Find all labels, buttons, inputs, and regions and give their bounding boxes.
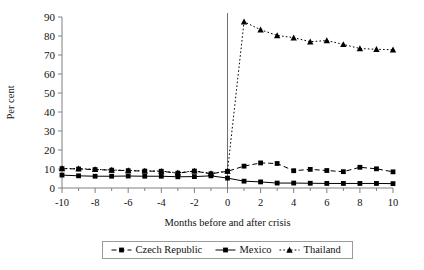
data-point-mexico	[93, 174, 98, 179]
data-point-mexico	[275, 181, 280, 186]
data-point-mexico	[109, 174, 114, 179]
data-point-czech-republic	[358, 165, 363, 170]
data-point-czech-republic	[341, 169, 346, 174]
x-tick-label: -2	[190, 197, 199, 208]
y-axis-title: Per cent	[5, 85, 16, 119]
y-tick-label: 80	[44, 30, 56, 42]
x-tick-label: -10	[55, 197, 69, 208]
x-tick-label: -8	[91, 197, 100, 208]
x-axis-title: Months before and after crisis	[165, 217, 291, 228]
legend-label-mexico[interactable]: Mexico	[240, 244, 272, 255]
y-tick-label: 20	[44, 144, 56, 156]
data-point-mexico	[291, 181, 296, 186]
data-point-czech-republic	[391, 169, 396, 174]
data-point-mexico	[76, 173, 81, 178]
legend-marker-czech-republic	[119, 248, 124, 253]
data-point-mexico	[159, 174, 164, 179]
y-tick-label: 50	[44, 87, 56, 99]
legend-marker-mexico	[223, 248, 228, 253]
y-tick-label: 30	[44, 125, 56, 137]
data-point-mexico	[192, 174, 197, 179]
x-tick-label: 6	[324, 197, 329, 208]
data-point-mexico	[324, 181, 329, 186]
data-point-mexico	[242, 179, 247, 184]
data-point-czech-republic	[324, 168, 329, 173]
data-point-thailand	[257, 27, 263, 33]
data-point-mexico	[225, 176, 230, 181]
x-tick-label: -4	[157, 197, 166, 208]
data-point-mexico	[308, 181, 313, 186]
data-point-mexico	[341, 181, 346, 186]
x-tick-label: -6	[124, 197, 133, 208]
y-tick-label: 90	[44, 11, 56, 23]
data-point-mexico	[258, 180, 263, 185]
data-point-mexico	[126, 174, 131, 179]
data-point-czech-republic	[258, 161, 263, 166]
x-tick-label: 8	[357, 197, 362, 208]
x-tick-label: 0	[225, 197, 230, 208]
data-point-mexico	[391, 181, 396, 186]
y-tick-label: 70	[44, 49, 56, 61]
data-point-czech-republic	[291, 168, 296, 173]
x-tick-label: 10	[388, 197, 399, 208]
data-point-mexico	[358, 181, 363, 186]
data-point-mexico	[142, 174, 147, 179]
chart-container: 0102030405060708090-10-8-6-4-20246810Mon…	[0, 0, 424, 270]
y-tick-label: 10	[44, 163, 56, 175]
data-point-thailand	[274, 32, 280, 38]
data-point-mexico	[60, 173, 65, 178]
data-point-czech-republic	[374, 166, 379, 171]
data-point-czech-republic	[242, 164, 247, 169]
y-tick-label: 40	[44, 106, 56, 118]
data-point-czech-republic	[275, 161, 280, 166]
legend-label-thailand[interactable]: Thailand	[304, 244, 342, 255]
x-tick-label: 4	[291, 197, 297, 208]
data-point-thailand	[340, 41, 346, 47]
y-tick-label: 60	[44, 68, 56, 80]
data-point-thailand	[241, 19, 247, 25]
legend-label-czech-republic[interactable]: Czech Republic	[136, 244, 203, 255]
line-chart: 0102030405060708090-10-8-6-4-20246810Mon…	[0, 0, 424, 270]
data-point-thailand	[291, 35, 297, 41]
x-tick-label: 2	[258, 197, 263, 208]
y-tick-label: 0	[50, 182, 56, 194]
data-point-czech-republic	[308, 167, 313, 172]
data-point-mexico	[374, 181, 379, 186]
data-point-thailand	[373, 46, 379, 52]
